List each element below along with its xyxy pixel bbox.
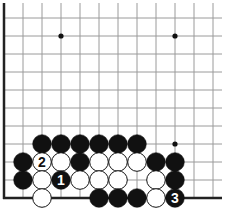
star-point-icon	[58, 33, 63, 38]
white-stone-disc	[90, 171, 109, 190]
black-stone	[33, 135, 52, 154]
black-stone	[14, 171, 33, 190]
white-stone-disc	[33, 171, 52, 190]
black-stone	[90, 189, 109, 208]
black-stone-disc	[128, 189, 147, 208]
white-stone	[71, 171, 90, 190]
move-number-label: 3	[171, 190, 179, 206]
white-stone	[90, 153, 109, 172]
white-stone	[147, 171, 166, 190]
go-board: 213	[0, 0, 225, 212]
black-stone	[90, 135, 109, 154]
move-number-label: 1	[57, 172, 65, 188]
black-stone	[128, 189, 147, 208]
white-stone: 2	[33, 153, 52, 172]
black-stone-disc	[147, 153, 166, 172]
white-stone	[90, 171, 109, 190]
black-stone-disc	[166, 153, 185, 172]
black-stone: 1	[52, 171, 71, 190]
black-stone	[14, 153, 33, 172]
white-stone-disc	[147, 189, 166, 208]
black-stone-disc	[14, 171, 33, 190]
black-stone	[166, 171, 185, 190]
black-stone	[109, 189, 128, 208]
white-stone-disc	[147, 171, 166, 190]
black-stone-disc	[109, 135, 128, 154]
star-point-icon	[172, 141, 177, 146]
white-stone-disc	[90, 153, 109, 172]
black-stone	[128, 135, 147, 154]
stones: 213	[14, 135, 185, 208]
white-stone-disc	[52, 153, 71, 172]
black-stone-disc	[52, 135, 71, 154]
white-stone-disc	[109, 153, 128, 172]
white-stone-disc	[33, 189, 52, 208]
move-number-label: 2	[38, 154, 46, 170]
black-stone-disc	[90, 189, 109, 208]
black-stone	[52, 135, 71, 154]
black-stone-disc	[166, 171, 185, 190]
black-stone-disc	[71, 135, 90, 154]
star-point-icon	[172, 33, 177, 38]
black-stone: 3	[166, 189, 185, 208]
white-stone	[109, 171, 128, 190]
white-stone	[109, 153, 128, 172]
white-stone	[52, 153, 71, 172]
black-stone	[147, 153, 166, 172]
black-stone-disc	[14, 153, 33, 172]
black-stone	[109, 135, 128, 154]
white-stone	[33, 189, 52, 208]
white-stone-disc	[71, 171, 90, 190]
white-stone	[147, 189, 166, 208]
black-stone-disc	[71, 153, 90, 172]
white-stone-disc	[109, 171, 128, 190]
white-stone	[128, 153, 147, 172]
black-stone-disc	[33, 135, 52, 154]
black-stone	[71, 135, 90, 154]
black-stone-disc	[109, 189, 128, 208]
white-stone-disc	[128, 153, 147, 172]
black-stone	[166, 153, 185, 172]
black-stone-disc	[128, 135, 147, 154]
white-stone	[33, 171, 52, 190]
black-stone-disc	[90, 135, 109, 154]
black-stone	[71, 153, 90, 172]
